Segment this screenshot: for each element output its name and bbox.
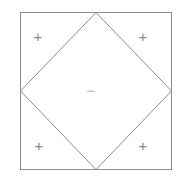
plus-top-left-icon: + <box>34 29 43 44</box>
plus-top-right-icon: + <box>139 29 148 44</box>
figure-canvas: + + + + − <box>0 0 184 180</box>
plus-bottom-right-icon: + <box>139 138 148 153</box>
plus-bottom-left-icon: + <box>35 138 44 153</box>
minus-center-icon: − <box>87 83 96 98</box>
